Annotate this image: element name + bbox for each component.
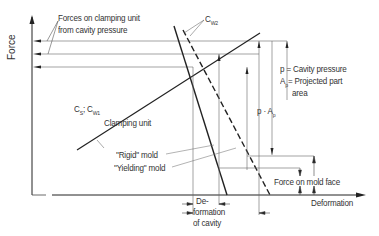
p-ap-subscript: p xyxy=(273,112,276,118)
cavity-pressure-definition: p = Cavity pressure xyxy=(280,64,347,74)
clamping-unit-line xyxy=(77,33,260,150)
force-level-arrows xyxy=(33,40,41,69)
x-axis-label: Deformation xyxy=(311,198,353,208)
projected-area-definition: Ap= Projected part xyxy=(280,76,342,90)
clamping-unit-label: Clamping unit xyxy=(104,118,151,128)
mold-face-lines xyxy=(219,156,314,168)
y-axis-label: Force xyxy=(6,34,17,60)
mold-leader-lines xyxy=(166,145,236,167)
vertical-arrows xyxy=(218,41,289,155)
cw2-subscript: W2 xyxy=(211,20,218,26)
p-ap-label: p · Ap xyxy=(257,106,275,120)
y-axis xyxy=(30,15,35,195)
forces-leader-lines xyxy=(47,21,58,54)
deformation-cavity-label-1: De- xyxy=(196,196,209,206)
ap-definition-text: = Projected part xyxy=(288,75,343,86)
projected-area-definition-2: area xyxy=(292,88,307,98)
deformation-cavity-label-3: of cavity xyxy=(193,218,221,228)
cs-cw1-label: CS; CW1 xyxy=(74,104,100,118)
cw2-label: CW2 xyxy=(205,14,218,28)
yielding-mold-label: "Yielding" mold xyxy=(114,163,165,173)
deformation-cavity-label-2: formation xyxy=(193,207,225,217)
clamping-unit-leader xyxy=(97,140,104,148)
p-ap-text: p · A xyxy=(257,105,273,116)
cw1-subscript: W1 xyxy=(93,110,100,116)
force-levels xyxy=(38,41,287,67)
cw2-leader-lines xyxy=(184,20,204,36)
rigid-mold-label: "Rigid" mold xyxy=(116,150,158,160)
cw1-symbol: ; C xyxy=(83,103,93,114)
forces-clamping-label-1: Forces on clamping unit xyxy=(58,13,140,23)
force-on-mold-face-label: Force on mold face xyxy=(274,177,340,187)
forces-clamping-label-2: from cavity pressure xyxy=(58,25,127,35)
